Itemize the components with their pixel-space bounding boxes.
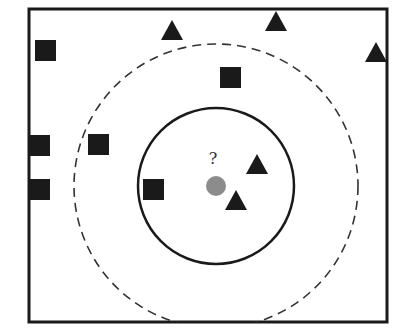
square-point (35, 40, 56, 61)
knn-diagram: ? (0, 0, 396, 329)
square-point (29, 135, 50, 156)
square-point (88, 134, 109, 155)
class-square-points (29, 40, 241, 200)
query-point (206, 176, 226, 196)
triangle-point (365, 42, 387, 62)
triangle-point (161, 20, 183, 40)
triangle-point (246, 154, 268, 174)
square-point (143, 179, 164, 200)
triangle-point (225, 190, 247, 210)
query-label: ? (209, 149, 218, 168)
triangle-point (265, 11, 287, 31)
square-point (29, 179, 50, 200)
square-point (220, 67, 241, 88)
